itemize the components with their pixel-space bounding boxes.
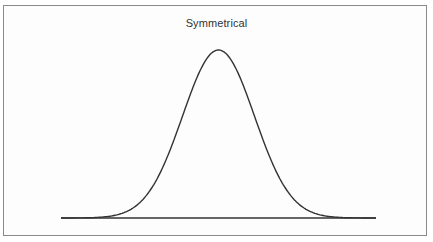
bell-curve: [61, 50, 376, 218]
bell-curve-graphic: [0, 0, 433, 242]
